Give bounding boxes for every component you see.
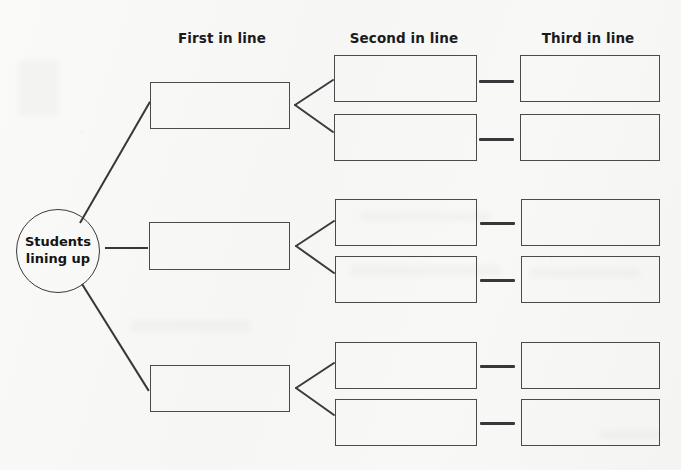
- second-in-line-box-3a[interactable]: [335, 342, 477, 389]
- paper-smudge: [130, 320, 250, 332]
- second-in-line-box-2b[interactable]: [335, 256, 477, 303]
- bracket-arm-lower: [296, 388, 334, 415]
- column-header-first: First in line: [178, 30, 266, 46]
- first-in-line-box-3[interactable]: [150, 365, 290, 412]
- third-in-line-box-2a[interactable]: [521, 199, 660, 246]
- second-in-line-box-1b[interactable]: [334, 114, 477, 161]
- connector-dash-1b: [479, 138, 514, 141]
- second-in-line-box-3b[interactable]: [335, 399, 477, 446]
- connector-root-to-bottom: [81, 283, 149, 391]
- bracket-middle: [293, 217, 339, 279]
- paper-smudge: [18, 60, 58, 116]
- connector-dash-3b: [480, 422, 515, 425]
- bracket-arm-upper: [296, 363, 334, 388]
- second-in-line-box-2a[interactable]: [335, 199, 477, 246]
- connector-dash-2b: [480, 279, 515, 282]
- bracket-top: [292, 76, 338, 138]
- root-node-label: Studentslining up: [23, 234, 93, 267]
- third-in-line-box-3a[interactable]: [521, 342, 660, 389]
- second-in-line-box-1a[interactable]: [334, 55, 477, 102]
- first-in-line-box-2[interactable]: [149, 222, 290, 270]
- root-node-label-line1: Students: [25, 234, 91, 249]
- first-in-line-box-1[interactable]: [150, 82, 290, 129]
- third-in-line-box-1b[interactable]: [520, 114, 660, 161]
- bracket-bottom: [293, 359, 339, 421]
- root-node-students-lining-up: Studentslining up: [16, 209, 100, 293]
- third-in-line-box-3b[interactable]: [521, 399, 660, 446]
- connector-dash-3a: [480, 365, 515, 368]
- connector-root-to-top: [79, 101, 151, 223]
- bracket-arm-upper: [296, 221, 334, 246]
- column-header-second: Second in line: [350, 30, 459, 46]
- diagram-canvas: First in line Second in line Third in li…: [0, 0, 681, 470]
- connector-dash-1a: [479, 80, 514, 83]
- third-in-line-box-1a[interactable]: [520, 55, 660, 102]
- root-node-label-line2: lining up: [26, 251, 90, 266]
- bracket-arm-lower: [295, 105, 333, 132]
- bracket-arm-lower: [296, 246, 334, 273]
- connector-root-to-middle: [105, 247, 148, 249]
- column-header-third: Third in line: [542, 30, 635, 46]
- connector-dash-2a: [480, 222, 515, 225]
- bracket-arm-upper: [295, 80, 333, 105]
- third-in-line-box-2b[interactable]: [521, 256, 660, 303]
